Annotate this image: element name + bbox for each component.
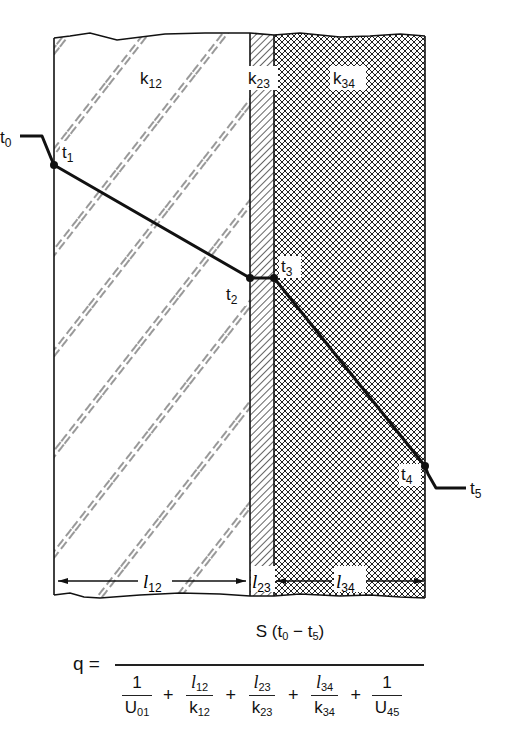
label-k34: k34 xyxy=(330,66,366,91)
label-k12: k12 xyxy=(136,66,172,91)
label-t2: t2 xyxy=(224,284,246,307)
term-1-over-U01: 1U01 xyxy=(118,673,156,718)
label-t5: t5 xyxy=(470,479,482,501)
formula-main-fraction-bar xyxy=(115,664,424,666)
label-t0: t0 xyxy=(0,128,12,150)
label-k23: k23 xyxy=(248,66,278,91)
term-l34-over-k34: l34k34 xyxy=(306,672,344,718)
label-t1: t1 xyxy=(60,141,82,165)
formula-denominator: 1U01 + l12k12 + l23k23 + l34k34 + 1U45 xyxy=(118,672,428,718)
layer-3-fill xyxy=(274,20,425,610)
layer-1-fill xyxy=(54,20,250,610)
term-l12-over-k12: l12k12 xyxy=(181,672,219,718)
term-l23-over-k23: l23k23 xyxy=(243,672,281,718)
point-t4 xyxy=(421,462,429,470)
label-t4: t4 xyxy=(399,464,421,487)
formula-lhs: q = xyxy=(73,653,100,675)
label-t3: t3 xyxy=(279,256,301,279)
composite-wall-diagram: k12 k23 k34 t0 t1 t2 t3 t4 t5 l12 xyxy=(0,0,506,612)
term-1-over-U45: 1U45 xyxy=(368,673,406,718)
point-t3 xyxy=(270,274,278,282)
point-t1 xyxy=(50,161,58,169)
dimension-l23: l23 xyxy=(251,566,275,595)
layer-2-fill xyxy=(250,20,274,610)
formula-numerator: S (t0 − t5) xyxy=(170,622,410,642)
point-t2 xyxy=(246,274,254,282)
